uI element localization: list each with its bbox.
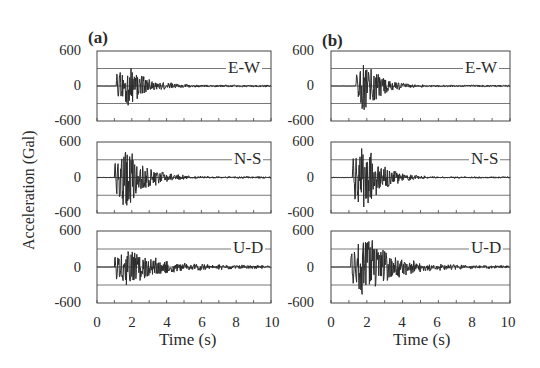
panel-b-letter: (b)	[322, 31, 343, 51]
ytick-a2-mid: 0	[37, 169, 81, 186]
component-label-b-ns: N-S	[469, 149, 500, 169]
ytick-a2-top: 600	[37, 133, 81, 150]
component-label-b-ud: U-D	[469, 238, 503, 258]
xtick-b-0: 0	[319, 314, 343, 331]
xtick-a-6: 6	[190, 314, 214, 331]
ytick-b2-top: 600	[270, 133, 314, 150]
panel-a-letter: (a)	[88, 28, 108, 48]
ytick-b2-mid: 0	[270, 169, 314, 186]
ytick-a3-top: 600	[37, 222, 81, 239]
xtick-a-2: 2	[120, 314, 144, 331]
xtick-b-6: 6	[425, 314, 449, 331]
ytick-b1-bot: -600	[270, 112, 314, 129]
xtick-a-8: 8	[224, 314, 248, 331]
y-axis-label: Acceleration (Gal)	[20, 131, 38, 250]
ytick-b3-top: 600	[270, 222, 314, 239]
ytick-a3-bot: -600	[37, 294, 81, 311]
xtick-a-4: 4	[155, 314, 179, 331]
component-label-a-ew: E-W	[226, 58, 262, 78]
xtick-b-8: 8	[460, 314, 484, 331]
ytick-a3-mid: 0	[37, 259, 81, 276]
x-axis-label-a: Time (s)	[159, 330, 216, 350]
xtick-b-2: 2	[355, 314, 379, 331]
component-label-b-ew: E-W	[463, 58, 499, 78]
ytick-b2-bot: -600	[270, 204, 314, 221]
component-label-a-ud: U-D	[231, 238, 265, 258]
xtick-b-4: 4	[390, 314, 414, 331]
ytick-b3-bot: -600	[270, 294, 314, 311]
ytick-b3-mid: 0	[270, 259, 314, 276]
ytick-a1-mid: 0	[37, 77, 81, 94]
xtick-a-10: 10	[260, 314, 284, 331]
ytick-a1-top: 600	[37, 42, 81, 59]
x-axis-label-b: Time (s)	[393, 330, 450, 350]
component-label-a-ns: N-S	[232, 149, 263, 169]
ytick-a2-bot: -600	[37, 204, 81, 221]
ytick-b1-top: 600	[270, 42, 314, 59]
xtick-b-10: 10	[496, 314, 520, 331]
ytick-a1-bot: -600	[37, 112, 81, 129]
xtick-a-0: 0	[85, 314, 109, 331]
ytick-b1-mid: 0	[270, 77, 314, 94]
